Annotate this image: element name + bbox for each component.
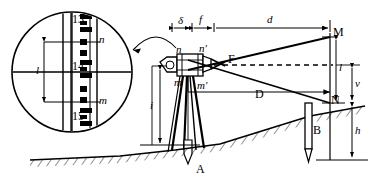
stadia-tacheometry-diagram: 13 14 15 n m l δ f d n n' m m' F i D M N… xyxy=(0,0,371,187)
instrument-height-label-i: i xyxy=(150,100,153,111)
l-label-right: l xyxy=(339,62,342,73)
staff-pole xyxy=(305,103,312,149)
reticle-label-l: l xyxy=(36,65,39,76)
reticle-label-n: n xyxy=(99,34,105,45)
staff-point xyxy=(305,149,312,162)
staff-number-14: 14 xyxy=(72,60,84,72)
h-label: h xyxy=(355,125,361,136)
D-label: D xyxy=(255,88,264,100)
diagram-canvas xyxy=(0,0,371,187)
instrument-label-m: m xyxy=(174,77,182,88)
f-label: f xyxy=(199,14,202,25)
reticle-circle-group xyxy=(8,10,176,134)
top-dimension-chain xyxy=(172,20,330,32)
d-label: d xyxy=(267,14,273,25)
station-label-B: B xyxy=(313,124,321,136)
instrument-label-n: n xyxy=(176,44,182,55)
staff-number-13: 13 xyxy=(72,13,84,25)
target-label-N: N xyxy=(331,94,340,106)
focus-label-F: F xyxy=(228,53,235,65)
instrument-height-group xyxy=(140,66,200,145)
telescope-barrel xyxy=(177,54,203,76)
target-label-M: M xyxy=(333,26,344,38)
delta-label: δ xyxy=(178,15,183,26)
instrument-label-m-prime: m' xyxy=(197,80,207,91)
eyepiece-lens xyxy=(166,61,174,69)
callout-leader xyxy=(133,37,176,50)
reticle-label-m: m xyxy=(99,95,107,106)
instrument-label-n-prime: n' xyxy=(199,43,207,54)
station-label-A: A xyxy=(196,163,205,175)
staff-number-15: 15 xyxy=(72,110,84,122)
v-label: v xyxy=(355,78,360,89)
